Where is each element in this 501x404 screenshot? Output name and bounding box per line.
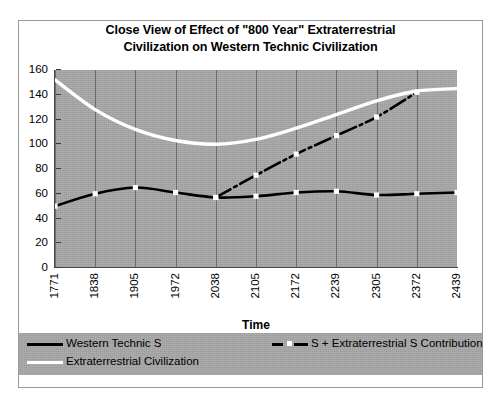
x-axis-tick-label: 1972 bbox=[170, 273, 182, 299]
legend-label: Western Technic S bbox=[66, 338, 161, 350]
series-line bbox=[55, 80, 457, 144]
legend-entry[interactable]: S + Extraterrestrial S Contribution bbox=[272, 338, 483, 350]
legend-entry[interactable]: Extraterrestrial Civilization bbox=[27, 356, 199, 368]
y-axis-tick-label: 60 bbox=[14, 188, 48, 200]
y-axis-tick-mark bbox=[56, 193, 61, 194]
plot-area bbox=[55, 70, 457, 268]
x-axis-tick-label: 1838 bbox=[89, 273, 101, 299]
chart-title-line-2: Civilization on Western Technic Civiliza… bbox=[28, 39, 473, 56]
data-point-marker bbox=[374, 192, 379, 197]
x-axis-tick-label: 2439 bbox=[451, 273, 463, 299]
y-axis-tick-label: 20 bbox=[14, 237, 48, 249]
y-axis: 160140120100806040200 bbox=[8, 64, 48, 274]
legend-swatch bbox=[27, 338, 63, 350]
chart-title: Close View of Effect of "800 Year" Extra… bbox=[28, 22, 473, 55]
legend-label: Extraterrestrial Civilization bbox=[66, 356, 199, 368]
x-axis-tick-label: 2105 bbox=[250, 273, 262, 299]
chart-legend: Western Technic SS + Extraterrestrial S … bbox=[19, 333, 482, 375]
x-axis-line bbox=[55, 267, 458, 268]
y-axis-tick-label: 120 bbox=[14, 114, 48, 126]
data-point-marker bbox=[334, 189, 339, 194]
y-axis-line bbox=[54, 70, 55, 268]
y-axis-tick-label: 40 bbox=[14, 213, 48, 225]
chart-title-line-1: Close View of Effect of "800 Year" Extra… bbox=[106, 23, 396, 37]
data-point-marker bbox=[253, 173, 258, 178]
data-point-marker bbox=[55, 204, 58, 209]
y-axis-tick-label: 80 bbox=[14, 163, 48, 175]
data-point-marker bbox=[133, 185, 138, 190]
legend-swatch bbox=[27, 356, 63, 368]
data-point-marker bbox=[213, 195, 218, 200]
data-point-marker bbox=[334, 133, 339, 138]
series-layer bbox=[55, 70, 457, 268]
series-line bbox=[216, 92, 417, 197]
x-axis-tick-label: 2172 bbox=[290, 273, 302, 299]
y-axis-tick-mark bbox=[56, 94, 61, 95]
x-axis-title: Time bbox=[55, 318, 457, 332]
data-point-marker bbox=[454, 190, 457, 195]
y-axis-tick-mark bbox=[56, 143, 61, 144]
data-point-marker bbox=[294, 152, 299, 157]
x-axis-tick-label: 1905 bbox=[129, 273, 141, 299]
data-point-marker bbox=[93, 191, 98, 196]
x-axis: 1771183819051972203821052172223923052372… bbox=[55, 273, 457, 321]
legend-label: S + Extraterrestrial S Contribution bbox=[311, 338, 483, 350]
data-point-marker bbox=[374, 114, 379, 119]
y-axis-tick-mark bbox=[56, 119, 61, 120]
x-axis-tick-label: 2305 bbox=[371, 273, 383, 299]
x-axis-tick-label: 1771 bbox=[49, 273, 61, 299]
y-axis-tick-mark bbox=[56, 168, 61, 169]
data-point-marker bbox=[294, 190, 299, 195]
data-point-marker bbox=[173, 190, 178, 195]
legend-marker bbox=[287, 341, 292, 346]
y-axis-tick-label: 0 bbox=[14, 262, 48, 274]
y-axis-tick-label: 100 bbox=[14, 138, 48, 150]
x-axis-tick-label: 2372 bbox=[411, 273, 423, 299]
legend-entry[interactable]: Western Technic S bbox=[27, 338, 161, 350]
legend-swatch bbox=[272, 338, 308, 350]
y-axis-tick-mark bbox=[56, 69, 61, 70]
y-axis-tick-label: 140 bbox=[14, 89, 48, 101]
data-point-marker bbox=[253, 194, 258, 199]
y-axis-tick-mark bbox=[56, 242, 61, 243]
data-point-marker bbox=[414, 191, 419, 196]
y-axis-tick-mark bbox=[56, 267, 61, 268]
x-axis-tick-label: 2038 bbox=[210, 273, 222, 299]
y-axis-tick-label: 160 bbox=[14, 64, 48, 76]
y-axis-tick-mark bbox=[56, 218, 61, 219]
x-axis-tick-label: 2239 bbox=[330, 273, 342, 299]
